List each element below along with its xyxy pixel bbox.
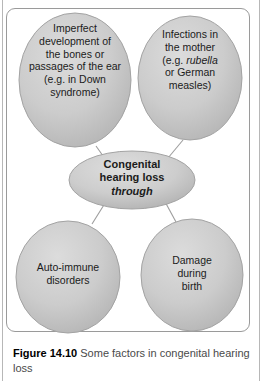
node-congenital-hearing-loss[interactable] <box>69 151 195 209</box>
node-infections-in-mother[interactable] <box>138 16 242 140</box>
figure-caption: Figure 14.10 Some factors in congenital … <box>13 346 253 375</box>
concept-map-diagram <box>0 0 264 340</box>
node-damage-during-birth[interactable] <box>141 219 243 331</box>
node-auto-immune-disorders[interactable] <box>16 221 120 333</box>
figure-number: Figure 14.10 <box>13 347 77 359</box>
node-imperfect-development[interactable] <box>19 13 131 147</box>
